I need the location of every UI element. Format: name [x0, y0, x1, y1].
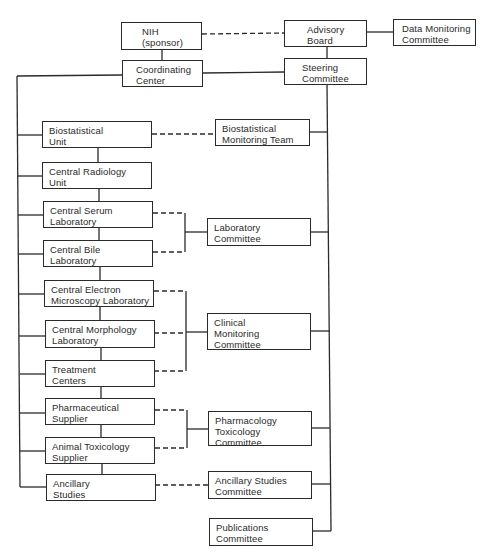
laboratory-committee-box: Laboratory Committee	[207, 218, 311, 246]
committee-line-2: Committee	[215, 486, 305, 497]
steering-line-2: Committee	[302, 73, 360, 84]
unit-line-2: Supplier	[52, 452, 148, 463]
unit-line-2: Supplier	[52, 413, 148, 424]
coordinating-center-box: Coordinating Center	[122, 60, 203, 87]
unit-line-1: Central Bile	[50, 244, 146, 255]
biostatistical-monitoring-team-box: Biostatistical Monitoring Team	[215, 119, 310, 146]
committee-line-3: Committee	[215, 437, 305, 448]
committee-line-1: Publications	[216, 522, 306, 533]
central-radiology-unit-box: Central Radiology Unit	[42, 162, 152, 189]
committee-line-3: Committee	[214, 339, 304, 350]
committee-line-2: Committee	[214, 233, 304, 244]
committee-line-1: Ancillary Studies	[215, 475, 305, 486]
steering-line-1: Steering	[302, 62, 360, 73]
central-serum-laboratory-box: Central Serum Laboratory	[43, 201, 153, 228]
unit-line-1: Central Radiology	[49, 166, 145, 177]
advisory-line-1: Advisory	[307, 24, 360, 35]
advisory-line-2: Board	[307, 35, 360, 46]
committee-line-2: Monitoring	[214, 328, 304, 339]
coordinating-line-1: Coordinating	[136, 64, 196, 75]
committee-line-1: Laboratory	[214, 222, 304, 233]
data-monitoring-line-1: Data Monitoring	[402, 23, 469, 34]
coordinating-line-2: Center	[136, 75, 196, 86]
nih-line-2: (sponsor)	[142, 37, 195, 48]
unit-line-1: Pharmaceutical	[52, 402, 148, 413]
committee-line-2: Toxicology	[215, 426, 305, 437]
unit-line-2: Laboratory	[52, 335, 148, 346]
clinical-monitoring-committee-box: Clinical Monitoring Committee	[207, 313, 311, 350]
animal-toxicology-supplier-box: Animal Toxicology Supplier	[45, 437, 155, 464]
ancillary-studies-box: Ancillary Studies	[46, 474, 156, 501]
unit-line-2: Microscopy Laboratory	[51, 295, 147, 306]
steering-committee-box: Steering Committee	[284, 58, 367, 85]
central-electron-microscopy-laboratory-box: Central Electron Microscopy Laboratory	[44, 280, 154, 307]
nih-sponsor-box: NIH (sponsor)	[121, 22, 202, 50]
unit-line-2: Unit	[49, 136, 145, 147]
publications-committee-box: Publications Committee	[209, 518, 313, 546]
treatment-centers-box: Treatment Centers	[45, 360, 155, 387]
unit-line-2: Laboratory	[50, 216, 146, 227]
committee-line-1: Clinical	[214, 317, 304, 328]
unit-line-1: Biostatistical	[49, 125, 145, 136]
pharmaceutical-supplier-box: Pharmaceutical Supplier	[45, 398, 155, 425]
biostatistical-unit-box: Biostatistical Unit	[42, 121, 152, 148]
data-monitoring-line-2: Committee	[402, 34, 469, 45]
unit-line-1: Ancillary	[53, 478, 149, 489]
ancillary-studies-committee-box: Ancillary Studies Committee	[208, 471, 312, 499]
advisory-board-box: Advisory Board	[284, 20, 367, 47]
unit-line-2: Studies	[53, 489, 149, 500]
committee-line-2: Committee	[216, 533, 306, 544]
committee-line-1: Pharmacology	[215, 415, 305, 426]
committee-line-2: Monitoring Team	[222, 134, 303, 145]
unit-line-2: Laboratory	[50, 255, 146, 266]
unit-line-1: Central Electron	[51, 284, 147, 295]
committee-line-1: Biostatistical	[222, 123, 303, 134]
nih-line-1: NIH	[142, 26, 195, 37]
central-morphology-laboratory-box: Central Morphology Laboratory	[45, 320, 155, 348]
unit-line-2: Centers	[52, 375, 148, 386]
pharmacology-toxicology-committee-box: Pharmacology Toxicology Committee	[208, 411, 312, 446]
unit-line-1: Central Serum	[50, 205, 146, 216]
unit-line-1: Animal Toxicology	[52, 441, 148, 452]
data-monitoring-committee-box: Data Monitoring Committee	[393, 19, 476, 46]
unit-line-1: Treatment	[52, 364, 148, 375]
unit-line-1: Central Morphology	[52, 324, 148, 335]
unit-line-2: Unit	[49, 177, 145, 188]
central-bile-laboratory-box: Central Bile Laboratory	[43, 240, 153, 267]
